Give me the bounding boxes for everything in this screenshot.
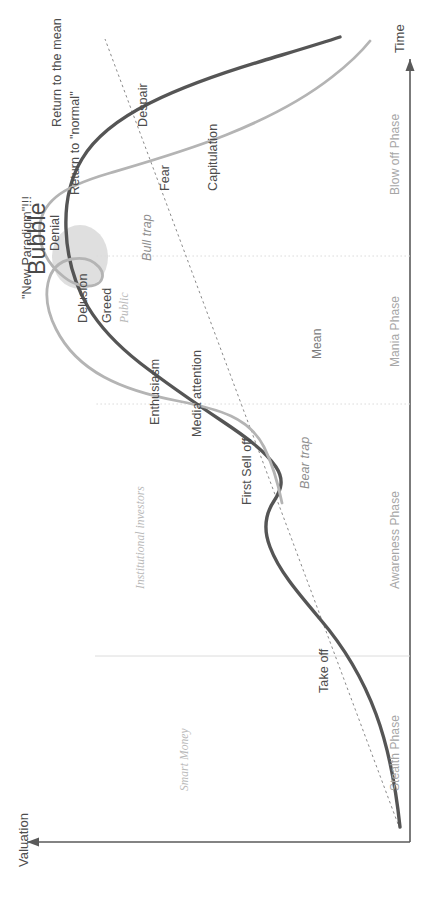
investor-label-institutional: Institutional investors — [134, 486, 146, 589]
stage-label-return-to-mean: Return to the mean — [50, 18, 64, 127]
phase-label-stealth: Stealth Phase — [388, 715, 402, 791]
stage-label-delusion: Delusion — [76, 274, 90, 323]
stage-label-enthusiasm: Enthusiasm — [148, 359, 162, 425]
phase-label-blowoff: Blow off Phase — [388, 114, 402, 195]
phase-label-mania: Mania Phase — [388, 296, 402, 367]
stage-label-bull-trap: Bull trap — [140, 214, 154, 261]
axis-label-time: Time — [392, 24, 407, 53]
stage-label-mean: Mean — [310, 329, 324, 359]
stage-label-despair: Despair — [136, 83, 150, 127]
time-axis — [406, 59, 415, 842]
bubble-chart-figure: Bubble Time Valuation Stealth Phase Awar… — [0, 0, 437, 919]
valuation-axis — [27, 838, 410, 847]
stage-label-first-sell-off: First Sell off — [240, 438, 254, 505]
stage-label-greed: Greed — [100, 288, 114, 323]
stage-label-media-attention: Media attention — [190, 350, 204, 437]
bubble-valuation-curve — [66, 37, 400, 827]
investor-label-public: Public — [118, 292, 130, 323]
stage-label-capitulation: Capitulation — [206, 124, 220, 191]
stage-label-take-off: Take off — [317, 649, 331, 693]
plot-canvas: Bubble Time Valuation Stealth Phase Awar… — [0, 0, 437, 919]
stage-label-denial: Denial — [48, 215, 62, 251]
stage-label-bear-trap: Bear trap — [298, 437, 312, 489]
stage-label-return-to-normal: Return to "normal" — [68, 91, 82, 195]
stage-label-fear: Fear — [158, 165, 172, 191]
investor-label-smart-money: Smart Money — [178, 728, 190, 791]
phase-label-awareness: Awareness Phase — [388, 491, 402, 589]
axis-label-valuation: Valuation — [16, 813, 31, 867]
stage-label-new-paradigm: "New Paradigm"!!! — [20, 196, 34, 299]
